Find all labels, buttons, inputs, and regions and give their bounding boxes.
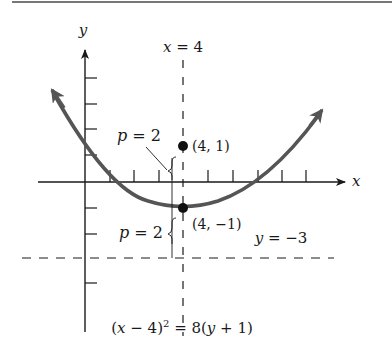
p-upper-leader xyxy=(146,147,167,170)
y-axis-label: y xyxy=(78,21,88,39)
vertex-point xyxy=(178,203,188,213)
p-upper-label: p = 2 xyxy=(117,126,161,145)
x-axis-label: x xyxy=(352,172,361,190)
y-axis xyxy=(85,50,97,332)
lower-brace xyxy=(168,218,176,244)
x-axis xyxy=(38,170,345,182)
curve-right-arrow xyxy=(310,110,322,126)
parabola-diagram: y x x = 4 y = −3 (4, 1) (4, −1) p = 2 p … xyxy=(0,0,392,352)
p-lower-label: p = 2 xyxy=(119,223,163,242)
focus-label: (4, 1) xyxy=(192,138,230,154)
equation-label: (x − 4)2 = 8(y + 1) xyxy=(111,318,253,337)
focus-point xyxy=(178,141,188,151)
axis-of-symmetry-label: x = 4 xyxy=(163,38,203,56)
directrix-label: y = −3 xyxy=(254,229,308,247)
curve-left-arrow xyxy=(52,90,64,108)
parabola-curve xyxy=(54,94,318,207)
vertex-label: (4, −1) xyxy=(192,216,241,232)
